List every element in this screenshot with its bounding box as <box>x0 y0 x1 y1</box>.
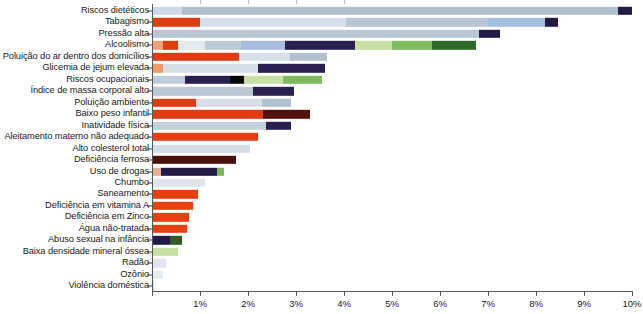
bar-segment <box>217 167 224 175</box>
x-axis-tick <box>248 291 249 296</box>
x-axis-tick-label: 3% <box>289 298 303 309</box>
category-label: Deficiência em vitamina A <box>45 201 149 210</box>
x-axis-tick <box>632 291 633 296</box>
bar-segment <box>545 18 558 26</box>
category-label: Índice de massa corporal alto <box>30 87 149 96</box>
category-label: Chumbo <box>114 178 149 187</box>
category-label: Inatividade física <box>82 121 149 130</box>
bar-segment <box>244 76 283 84</box>
bar-segment <box>241 41 286 49</box>
x-axis-tick-label: 2% <box>241 298 255 309</box>
bar-segment <box>488 18 545 26</box>
stacked-bar <box>152 271 163 279</box>
stacked-bar <box>152 30 500 38</box>
category-label: Deficiência em Zinco <box>65 213 149 222</box>
category-label: Abuso sexual na infância <box>48 236 149 245</box>
x-axis-tick <box>488 291 489 296</box>
x-axis-tick <box>584 291 585 296</box>
bar-segment <box>152 7 182 15</box>
bar-segment <box>163 41 179 49</box>
top-tick-mark <box>344 0 345 4</box>
top-tick-mark <box>248 0 249 4</box>
stacked-bar <box>152 259 166 267</box>
x-axis-tick-label: 6% <box>433 298 447 309</box>
x-axis-tick <box>536 291 537 296</box>
x-axis-tick <box>296 291 297 296</box>
top-tick-mark <box>296 0 297 4</box>
x-axis-tick <box>200 291 201 296</box>
bar-segment <box>152 121 266 129</box>
bar-segment <box>258 64 325 72</box>
stacked-bar <box>152 179 205 187</box>
bar-segment <box>152 133 258 141</box>
chart-rows: Riscos dietéticosTabagismoPressão altaAl… <box>0 0 643 292</box>
bar-segment <box>185 76 231 84</box>
y-axis-line <box>152 4 153 292</box>
bar-segment <box>152 236 170 244</box>
bar-segment <box>182 7 618 15</box>
stacked-bar <box>152 64 325 72</box>
x-axis-tick-label: 1% <box>193 298 207 309</box>
bar-segment <box>432 41 476 49</box>
bar-segment <box>163 64 258 72</box>
bar-segment <box>152 110 263 118</box>
stacked-bar <box>152 121 291 129</box>
category-label: Alcoolismo <box>105 41 149 50</box>
x-axis-tick-label: 5% <box>385 298 399 309</box>
bar-segment <box>170 236 182 244</box>
bar-segment <box>178 41 204 49</box>
bar-segment <box>152 202 193 210</box>
x-axis-tick-label: 7% <box>481 298 495 309</box>
stacked-bar <box>152 190 198 198</box>
category-label: Poluição ambiente <box>74 98 149 107</box>
stacked-bar <box>152 225 187 233</box>
bar-segment <box>152 30 479 38</box>
stacked-bar <box>152 213 189 221</box>
category-label: Glicemia de jejum elevada <box>42 64 149 73</box>
category-label: Alto colesterol total <box>73 144 149 153</box>
bar-segment <box>152 53 239 61</box>
stacked-bar <box>152 53 327 61</box>
bar-segment <box>152 144 250 152</box>
stacked-bar <box>152 236 182 244</box>
stacked-bar <box>152 110 310 118</box>
stacked-bar <box>152 76 322 84</box>
top-tick-mark <box>200 0 201 4</box>
bar-segment <box>152 190 198 198</box>
bar-segment <box>152 225 187 233</box>
bar-segment <box>346 18 488 26</box>
stacked-bar <box>152 167 224 175</box>
category-label: Ozônio <box>120 270 149 279</box>
bar-segment <box>285 41 355 49</box>
x-axis-tick <box>440 291 441 296</box>
bar-segment <box>263 110 310 118</box>
x-axis-tick <box>344 291 345 296</box>
stacked-bar <box>152 202 193 210</box>
x-axis-tick-label: 10% <box>622 298 641 309</box>
bar-segment <box>152 76 185 84</box>
bar-segment <box>253 87 294 95</box>
stacked-bar <box>152 41 476 49</box>
bar-segment <box>392 41 432 49</box>
category-label: Aleitamento materno não adequado <box>4 132 149 141</box>
bar-segment <box>152 271 163 279</box>
bar-segment <box>152 87 253 95</box>
category-label: Riscos ocupacionais <box>66 75 149 84</box>
stacked-bar <box>152 133 258 141</box>
category-label: Água não-tratada <box>79 224 149 233</box>
x-axis-tick-label: 9% <box>577 298 591 309</box>
category-label: Poluição do ar dentro dos domicílios <box>3 52 149 61</box>
category-label: Saneamento <box>97 190 149 199</box>
category-label: Uso de drogas <box>90 167 149 176</box>
bar-segment <box>355 41 392 49</box>
x-axis-tick <box>392 291 393 296</box>
stacked-bar <box>152 87 294 95</box>
bar-segment <box>200 18 346 26</box>
x-axis-tick-label: 8% <box>529 298 543 309</box>
bar-segment <box>266 121 291 129</box>
stacked-bar-chart: Riscos dietéticosTabagismoPressão altaAl… <box>0 0 643 314</box>
category-label: Riscos dietéticos <box>81 6 149 15</box>
bar-segment <box>152 64 163 72</box>
category-label: Baixa densidade mineral óssea <box>23 247 149 256</box>
bar-segment <box>230 76 243 84</box>
